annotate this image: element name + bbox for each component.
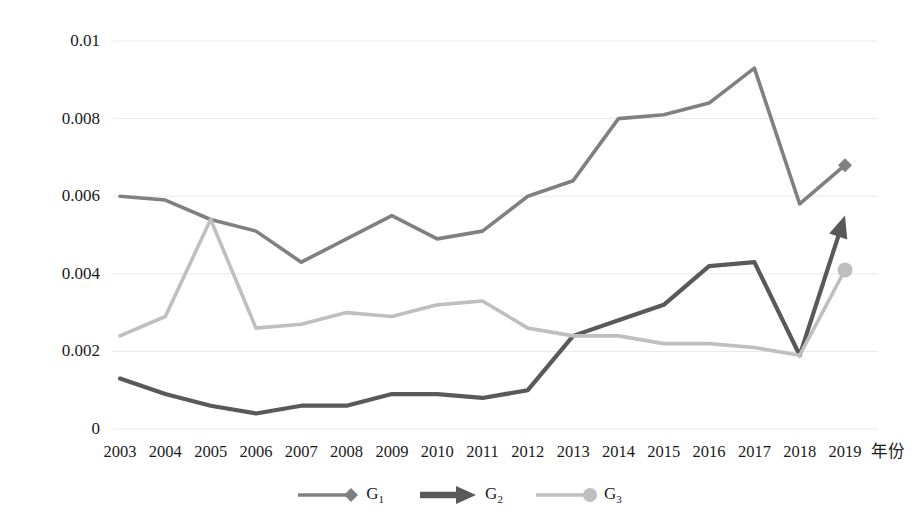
legend-swatch-diamond-icon [295,484,361,506]
marker-arrowhead-g2 [829,216,847,240]
legend-item-g3[interactable]: G3 [533,484,622,506]
legend-swatch-arrow-icon [414,484,480,506]
legend-label-g2: G2 [485,485,503,505]
x-axis-tick-label: 2019 [815,443,875,460]
legend-label-g1: G1 [366,485,384,505]
marker-circle-g3 [838,262,853,277]
y-axis-tick-label: 0.002 [0,342,100,359]
y-axis-tick-label: 0 [0,420,100,437]
x-axis-title: 年份 [871,443,905,460]
y-axis-tick-label: 0.006 [0,187,100,204]
series-line-g1 [120,68,845,262]
line-chart: 00.0020.0040.0060.0080.01 20032004200520… [0,0,917,532]
y-axis-tick-label: 0.004 [0,265,100,282]
series-line-g3 [120,219,845,355]
legend-label-g3: G3 [604,485,622,505]
chart-legend: G1G2G3 [0,484,917,506]
y-axis-tick-label: 0.008 [0,110,100,127]
data-series-group [120,68,845,413]
y-axis-tick-label: 0.01 [0,32,100,49]
legend-item-g2[interactable]: G2 [414,484,503,506]
legend-item-g1[interactable]: G1 [295,484,384,506]
legend-swatch-circle-icon [533,484,599,506]
